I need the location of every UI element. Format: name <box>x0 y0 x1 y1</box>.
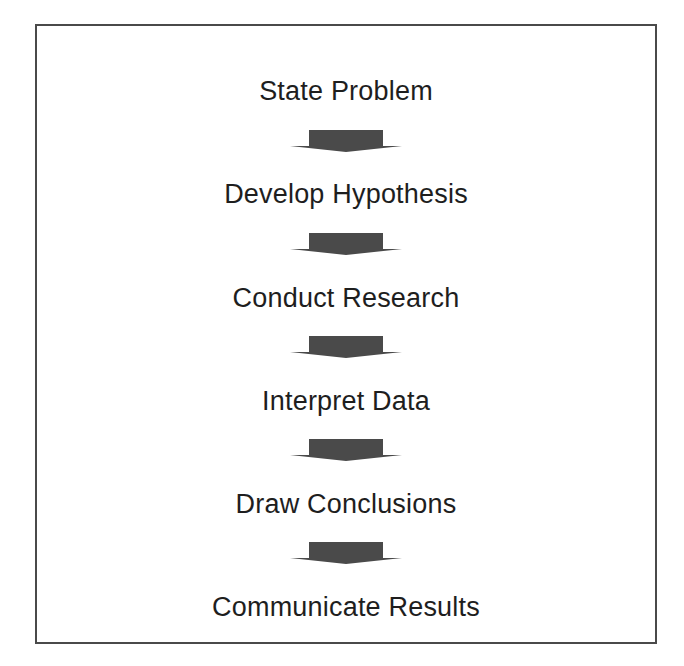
flowchart-frame: State Problem Develop Hypothesis Conduct… <box>35 24 657 644</box>
step-communicate-results: Communicate Results <box>37 592 655 622</box>
step-develop-hypothesis: Develop Hypothesis <box>37 179 655 209</box>
step-draw-conclusions: Draw Conclusions <box>37 489 655 519</box>
down-arrow-icon <box>290 233 402 255</box>
step-interpret-data: Interpret Data <box>37 386 655 416</box>
down-arrow-icon <box>290 542 402 564</box>
down-arrow-icon <box>290 439 402 461</box>
down-arrow-icon <box>290 336 402 358</box>
step-state-problem: State Problem <box>37 76 655 106</box>
step-conduct-research: Conduct Research <box>37 283 655 313</box>
down-arrow-icon <box>290 130 402 152</box>
